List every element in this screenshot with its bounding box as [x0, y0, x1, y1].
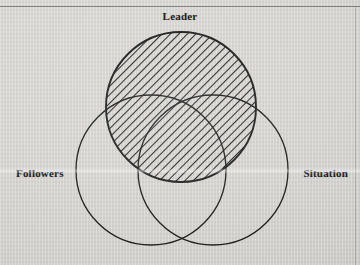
- label-situation: Situation: [303, 167, 348, 179]
- label-followers: Followers: [16, 167, 64, 179]
- leader-shaded-region: [100, 25, 265, 195]
- scanned-page: Leader Followers Situation: [0, 0, 360, 265]
- label-leader: Leader: [0, 10, 360, 22]
- venn-diagram: [0, 0, 360, 265]
